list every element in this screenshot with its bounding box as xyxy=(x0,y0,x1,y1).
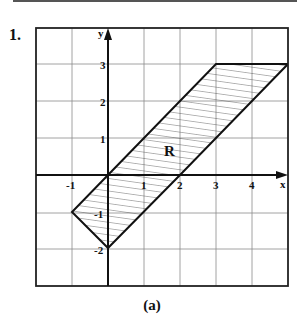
x-tick-4: 4 xyxy=(249,179,255,191)
x-tick-neg1: -1 xyxy=(66,179,75,191)
y-tick-1: 1 xyxy=(100,133,106,145)
region-label: R xyxy=(164,143,175,159)
y-tick-neg2: -2 xyxy=(94,244,104,256)
y-axis-label: y xyxy=(98,27,104,39)
y-tick-3: 3 xyxy=(100,59,106,71)
y-tick-2: 2 xyxy=(100,96,106,108)
y-tick-neg1: -1 xyxy=(94,208,103,220)
x-tick-1: 1 xyxy=(141,179,147,191)
x-axis-label: x xyxy=(280,178,286,190)
figure-caption: (a) xyxy=(143,297,161,314)
x-tick-2: 2 xyxy=(177,179,183,191)
x-tick-3: 3 xyxy=(213,179,219,191)
axis-labels: y x 3 2 1 -1 -2 -1 1 2 3 4 R xyxy=(0,0,304,325)
